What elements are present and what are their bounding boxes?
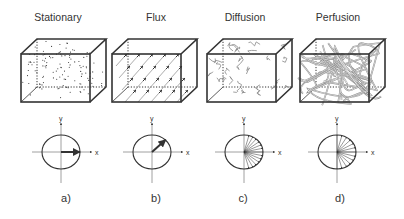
- particle-dot: [63, 85, 64, 86]
- diffusion-path: [248, 50, 257, 52]
- panel-c-title: Diffusion: [225, 11, 266, 23]
- flux-trail: [129, 57, 137, 66]
- particle-dot: [36, 72, 37, 73]
- particle-dot: [69, 57, 70, 58]
- diffusion-path: [242, 90, 246, 93]
- particle-dot: [49, 56, 50, 57]
- front-face: [21, 54, 90, 102]
- hidden-edge: [21, 87, 37, 102]
- particle-dot: [46, 65, 47, 66]
- particle-dot: [60, 51, 61, 52]
- particle-dot: [88, 80, 89, 81]
- flux-trail: [148, 81, 156, 90]
- particle-dot: [45, 66, 46, 67]
- hidden-edge: [112, 87, 128, 102]
- x-axis-label: x: [186, 149, 190, 156]
- particle-dot: [79, 65, 80, 66]
- diffusion-path: [238, 81, 243, 89]
- particle-dot: [64, 79, 65, 80]
- flux-arrow: [130, 78, 133, 81]
- right-face: [90, 39, 106, 102]
- panel-d-vector-diagram: xy: [308, 115, 375, 183]
- particle-dot: [80, 67, 81, 68]
- flux-trail: [164, 93, 172, 102]
- particle-dot: [74, 50, 75, 51]
- flux-arrow: [185, 90, 188, 93]
- flux-arrow: [140, 66, 143, 69]
- particle-dot: [65, 79, 66, 80]
- particle-dot: [59, 44, 60, 45]
- particle-dot: [70, 52, 71, 53]
- particle-dot: [86, 56, 87, 57]
- panel-d-label: d): [335, 192, 345, 204]
- panel-d-title: Perfusion: [316, 11, 360, 23]
- particle-dot: [81, 73, 82, 74]
- particle-dot: [101, 85, 102, 86]
- particle-dot: [92, 78, 93, 79]
- particle-dot: [39, 84, 40, 85]
- panel-a-cube: [21, 39, 106, 102]
- diffusion-path: [276, 79, 279, 84]
- particle-dot: [35, 70, 36, 71]
- particle-dot: [28, 83, 29, 84]
- diffusion-path: [233, 88, 240, 92]
- particle-dot: [102, 71, 103, 72]
- panel-a-title: Stationary: [34, 11, 81, 23]
- flux-trail: [135, 81, 143, 90]
- x-axis-label: x: [278, 149, 282, 156]
- flux-trail: [171, 69, 179, 78]
- particle-dot: [35, 87, 36, 88]
- particle-dot: [70, 64, 71, 65]
- flux-trail: [125, 93, 133, 102]
- right-face: [181, 39, 197, 102]
- particle-dot: [68, 62, 69, 63]
- diffusion-path: [255, 85, 260, 91]
- particle-dot: [69, 55, 70, 56]
- flux-arrow: [146, 90, 149, 93]
- particle-dot: [66, 48, 67, 49]
- particle-dot: [101, 83, 102, 84]
- particle-dot: [57, 88, 58, 89]
- particle-dot: [83, 57, 84, 58]
- particle-dot: [28, 70, 29, 71]
- particle-dot: [66, 87, 67, 88]
- panel-a-vector-diagram: xy: [32, 115, 99, 183]
- top-face: [207, 39, 292, 54]
- particle-dot: [59, 76, 60, 77]
- particle-dot: [66, 42, 67, 43]
- x-axis-label: x: [371, 149, 375, 156]
- particle-dot: [35, 46, 36, 47]
- velocity-vector: [244, 137, 253, 152]
- particle-dot: [60, 67, 61, 68]
- diffusion-path: [267, 56, 270, 61]
- flux-trail: [132, 69, 140, 78]
- flux-arrow: [172, 90, 175, 93]
- flux-trail: [142, 57, 150, 66]
- panel-c-vector-diagram: xy: [215, 115, 282, 183]
- particle-dot: [53, 72, 54, 73]
- panel-a-label: a): [61, 192, 71, 204]
- flux-trail: [158, 69, 166, 78]
- flux-trail: [168, 57, 176, 66]
- particle-dot: [61, 87, 62, 88]
- particle-dot: [83, 89, 84, 90]
- flux-arrow: [156, 78, 159, 81]
- y-axis-label: y: [59, 115, 63, 123]
- top-face: [112, 39, 197, 54]
- particle-dot: [70, 92, 71, 93]
- panel-c-label: c): [238, 192, 247, 204]
- particle-dot: [56, 71, 57, 72]
- diffusion-path: [249, 42, 261, 46]
- particle-dot: [46, 62, 47, 63]
- panel-b-cube: [112, 39, 197, 102]
- diffusion-path: [223, 77, 227, 80]
- particle-dot: [30, 61, 31, 62]
- flux-arrow: [169, 78, 172, 81]
- particle-dot: [91, 83, 92, 84]
- particle-dot: [88, 93, 89, 94]
- particle-dot: [39, 87, 40, 88]
- velocity-vector: [152, 140, 166, 152]
- flux-arrow: [143, 78, 146, 81]
- flux-trail: [119, 69, 127, 78]
- particle-dot: [85, 73, 86, 74]
